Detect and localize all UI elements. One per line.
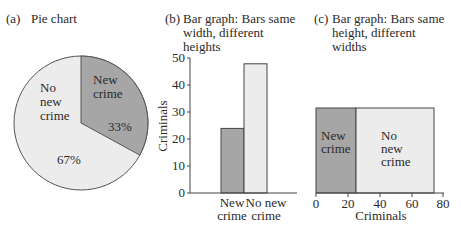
bar-graph-c: 0 20 40 60 80 Criminals New crime No new… (313, 108, 450, 223)
pie-chart: New crime 33% No new crime 67% (14, 56, 148, 190)
ytick-40: 40 (172, 77, 185, 92)
xcat-crime: crime (217, 208, 247, 223)
xtick-20: 20 (342, 196, 355, 211)
pie-label-crime: crime (93, 86, 123, 101)
x-axis-label-c: Criminals (355, 208, 406, 223)
ytick-50: 50 (172, 50, 185, 65)
bar-c-label-crime: crime (321, 141, 351, 156)
bar-c-label-crime2: crime (381, 154, 411, 169)
y-axis-label: Criminals (155, 100, 170, 151)
pie-label-no: No (40, 80, 56, 95)
ytick-10: 10 (172, 158, 185, 173)
ytick-20: 20 (172, 131, 185, 146)
xcat-crime2: crime (251, 208, 281, 223)
ytick-0: 0 (179, 185, 186, 200)
ytick-30: 30 (172, 104, 185, 119)
pie-label-new2: new (40, 94, 62, 109)
pie-pct-new-crime: 33% (108, 119, 132, 134)
bar-new-crime (221, 128, 244, 193)
bar-no-new-crime (244, 64, 267, 193)
xtick-0: 0 (313, 196, 320, 211)
xtick-80: 80 (437, 196, 450, 211)
xtick-60: 60 (406, 196, 419, 211)
pie-label-crime2: crime (40, 108, 70, 123)
bar-graph-b: 0 10 20 30 40 50 Criminals New crime No … (155, 50, 297, 223)
y-tick-labels: 0 10 20 30 40 50 (172, 50, 185, 200)
charts-canvas: New crime 33% No new crime 67% 0 10 20 3… (0, 0, 461, 229)
pie-label-new: New (93, 72, 118, 87)
pie-pct-no-new-crime: 67% (57, 152, 81, 167)
